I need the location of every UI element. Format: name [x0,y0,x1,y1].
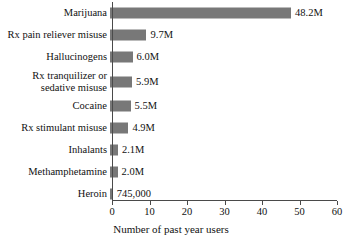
value-label: 5.5M [135,101,157,112]
bar [110,76,132,87]
value-label: 6.0M [137,52,159,63]
value-label: 745,000 [117,189,151,200]
table-row: Cocaine 5.5M [0,95,342,117]
bar [110,30,146,41]
value-label: 48.2M [295,8,323,19]
bar-zone: 2.1M [110,139,339,161]
x-axis-tick [150,201,151,205]
category-label: Heroin [0,189,110,200]
x-axis-tick-label: 30 [210,206,240,217]
value-label: 5.9M [136,76,158,87]
category-label: Methamphetamine [0,167,110,178]
x-axis-tick-label: 20 [172,206,202,217]
table-row: Marijuana 48.2M [0,2,342,24]
bar-zone: 9.7M [110,24,339,46]
category-label: Hallucinogens [0,52,110,63]
chart-plot-area: Marijuana 48.2M Rx pain reliever misuse … [0,2,342,200]
x-axis-tick [300,201,301,205]
category-label: Rx tranquilizer or sedative misuse [0,70,110,94]
table-row: Methamphetamine 2.0M [0,161,342,183]
x-axis-tick-label: 10 [135,206,165,217]
table-row: Hallucinogens 6.0M [0,46,342,68]
bar-zone: 2.0M [110,161,339,183]
x-axis-tick [225,201,226,205]
bar-zone: 48.2M [110,2,339,24]
x-axis-tick [337,201,338,205]
y-axis-line [112,2,113,200]
x-axis-tick [262,201,263,205]
value-label: 2.0M [122,167,144,178]
bar [110,52,133,63]
x-axis-tick-label: 40 [247,206,277,217]
table-row: Inhalants 2.1M [0,139,342,161]
table-row: Rx stimulant misuse 4.9M [0,117,342,139]
x-axis-tick-label: 50 [285,206,315,217]
bar-zone: 4.9M [110,117,339,139]
bar [110,8,291,19]
value-label: 9.7M [151,30,173,41]
bar-zone: 6.0M [110,46,339,68]
value-label: 2.1M [122,145,144,156]
x-axis-title: Number of past year users [0,223,342,235]
category-label: Cocaine [0,101,110,112]
table-row: Rx tranquilizer or sedative misuse 5.9M [0,68,342,95]
category-label: Inhalants [0,145,110,156]
category-label: Rx stimulant misuse [0,123,110,134]
x-axis-tick-label: 60 [322,206,347,217]
x-axis-tick [112,201,113,205]
table-row: Heroin 745,000 [0,183,342,205]
bar [110,101,131,112]
table-row: Rx pain reliever misuse 9.7M [0,24,342,46]
x-axis-tick-label: 0 [97,206,127,217]
bar-zone: 5.9M [110,68,339,95]
category-label: Rx pain reliever misuse [0,30,110,41]
value-label: 4.9M [132,123,154,134]
x-axis-tick [187,201,188,205]
category-label: Marijuana [0,8,110,19]
bar-zone: 5.5M [110,95,339,117]
